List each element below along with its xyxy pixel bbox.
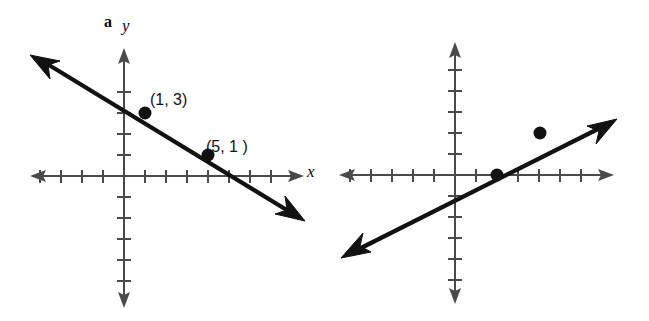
coordinate-plane-b — [325, 0, 649, 321]
line-arrow-lower-right-a — [275, 196, 305, 221]
x-axis-label-a: x — [307, 163, 315, 180]
data-point-1-3 — [139, 107, 152, 120]
y-axis-label-a: y — [122, 17, 130, 34]
graph-panel-a: a y x (1, 3) (5, 1 ) — [0, 0, 324, 321]
plotted-line-b — [341, 119, 617, 258]
point-label-5-1: (5, 1 ) — [206, 139, 248, 155]
data-points-a — [139, 107, 215, 162]
graph-panel-b: b. y x (6, 2) (2, 0) — [325, 0, 649, 321]
plotted-line-a — [30, 55, 305, 221]
panel-label-a: a — [104, 14, 112, 30]
coordinate-plane-a — [0, 0, 324, 321]
line-segment-b — [357, 127, 602, 250]
data-point-6-2 — [534, 127, 547, 140]
figure-two-line-graphs: a y x (1, 3) (5, 1 ) — [0, 0, 649, 321]
data-point-2-0 — [491, 169, 504, 182]
point-label-1-3: (1, 3) — [150, 92, 187, 108]
line-segment-a — [44, 62, 290, 212]
